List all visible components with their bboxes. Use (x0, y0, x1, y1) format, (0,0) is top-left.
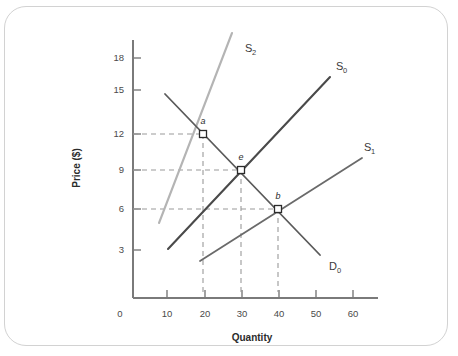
x-tick-label-20: 20 (200, 308, 211, 319)
y-tick-label-6: 6 (119, 203, 124, 214)
x-tick-label-60: 60 (348, 308, 359, 319)
curve-d0 (165, 94, 320, 255)
guide-lines (133, 134, 278, 292)
x-tick-label-40: 40 (274, 308, 285, 319)
curve-s2 (159, 33, 232, 223)
curve-s0 (168, 77, 330, 249)
x-axis-ticks (167, 290, 353, 298)
x-tick-label-50: 50 (311, 308, 322, 319)
curve-sub-s2: 2 (252, 48, 256, 57)
point-label-a: a (200, 116, 205, 126)
x-axis-title: Quantity (232, 332, 273, 343)
y-axis-tick-labels: 18 15 12 9 6 3 (113, 52, 124, 255)
x-tick-label-0: 0 (117, 308, 122, 319)
curve-label-s2-group: S 2 (245, 42, 256, 57)
x-tick-label-30: 30 (237, 308, 248, 319)
curve-sub-s0: 0 (343, 66, 347, 75)
curve-label-s1-group: S 1 (364, 141, 375, 156)
x-tick-label-10: 10 (162, 308, 173, 319)
point-label-e: e (238, 152, 243, 162)
y-tick-label-12: 12 (113, 128, 124, 139)
axes (133, 40, 378, 298)
curve-sub-s1: 1 (371, 147, 375, 156)
point-label-b: b (275, 191, 280, 201)
point-marker-b (275, 206, 282, 213)
supply-demand-chart: 18 15 12 9 6 3 0 10 20 30 40 50 60 Quant… (0, 0, 458, 356)
curve-label-d0-group: D 0 (329, 260, 341, 275)
curve-sub-d0: 0 (337, 266, 341, 275)
y-tick-label-18: 18 (113, 52, 124, 63)
point-marker-e (238, 167, 245, 174)
y-tick-label-9: 9 (119, 164, 124, 175)
y-tick-label-15: 15 (113, 84, 124, 95)
point-marker-a (200, 131, 207, 138)
y-axis-ticks (133, 58, 141, 250)
curve-label-s0-group: S 0 (336, 60, 347, 75)
curve-label-d0: D (329, 260, 337, 272)
x-axis-tick-labels: 0 10 20 30 40 50 60 (117, 308, 358, 319)
y-axis-title: Price ($) (71, 148, 82, 187)
y-tick-label-3: 3 (119, 244, 124, 255)
